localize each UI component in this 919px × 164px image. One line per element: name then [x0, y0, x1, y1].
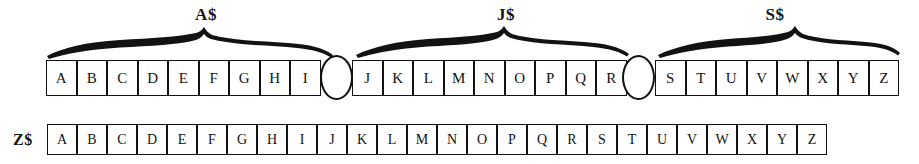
letter-cell: U	[647, 124, 677, 155]
brace-s	[658, 26, 900, 58]
letter-cell: S	[587, 124, 617, 155]
letter-cell: K	[383, 60, 414, 96]
letter-cell: J	[352, 60, 383, 96]
letter-cell: E	[168, 60, 199, 96]
letter-cell: F	[197, 124, 227, 155]
letter-cell: P	[535, 60, 566, 96]
letter-cell: G	[229, 60, 260, 96]
letter-cell: N	[437, 124, 467, 155]
letter-cell: N	[474, 60, 505, 96]
top-row-segment-s: S T U V W X Y Z	[655, 60, 899, 96]
letter-cell: B	[77, 124, 107, 155]
brace-a	[47, 27, 333, 59]
letter-cell: M	[444, 60, 475, 96]
segment-separator-oval	[320, 55, 353, 100]
top-row-segment-a: A B C D E F G H I	[46, 60, 321, 96]
letter-cell: P	[497, 124, 527, 155]
letter-cell: Z	[797, 124, 827, 155]
letter-cell: Q	[527, 124, 557, 155]
letter-cell: D	[137, 124, 167, 155]
string-array-diagram: A$ J$ S$ A B C D E F G H I J K L M N O P…	[0, 0, 919, 164]
letter-cell: W	[707, 124, 737, 155]
letter-cell: G	[227, 124, 257, 155]
letter-cell: C	[107, 124, 137, 155]
letter-cell: I	[290, 60, 321, 96]
letter-cell: W	[777, 60, 808, 96]
letter-cell: B	[77, 60, 108, 96]
letter-cell: F	[199, 60, 230, 96]
brace-j	[356, 26, 629, 58]
letter-cell: H	[260, 60, 291, 96]
letter-cell: T	[617, 124, 647, 155]
letter-cell: Q	[566, 60, 597, 96]
letter-cell: D	[138, 60, 169, 96]
letter-cell: L	[377, 124, 407, 155]
letter-cell: O	[467, 124, 497, 155]
letter-cell: M	[407, 124, 437, 155]
top-row-segment-j: J K L M N O P Q R	[352, 60, 627, 96]
letter-cell: X	[808, 60, 839, 96]
brace-label-j: J$	[484, 6, 528, 23]
letter-cell: R	[557, 124, 587, 155]
letter-cell: V	[677, 124, 707, 155]
letter-cell: L	[413, 60, 444, 96]
brace-label-s: S$	[753, 6, 797, 23]
letter-cell: X	[737, 124, 767, 155]
letter-cell: K	[347, 124, 377, 155]
letter-cell: Z	[869, 60, 900, 96]
letter-cell: I	[287, 124, 317, 155]
letter-cell: V	[747, 60, 778, 96]
bottom-row-label: Z$	[13, 132, 33, 148]
letter-cell: O	[505, 60, 536, 96]
letter-cell: S	[655, 60, 686, 96]
letter-cell: H	[257, 124, 287, 155]
letter-cell: C	[107, 60, 138, 96]
letter-cell: T	[686, 60, 717, 96]
letter-cell: Y	[767, 124, 797, 155]
letter-cell: E	[167, 124, 197, 155]
bottom-row-strip: A B C D E F G H I J K L M N O P Q R S T …	[47, 124, 827, 155]
letter-cell: A	[46, 60, 77, 96]
letter-cell: Y	[838, 60, 869, 96]
letter-cell: J	[317, 124, 347, 155]
segment-separator-oval	[622, 55, 655, 100]
brace-label-a: A$	[184, 6, 228, 23]
letter-cell: A	[47, 124, 77, 155]
letter-cell: U	[716, 60, 747, 96]
